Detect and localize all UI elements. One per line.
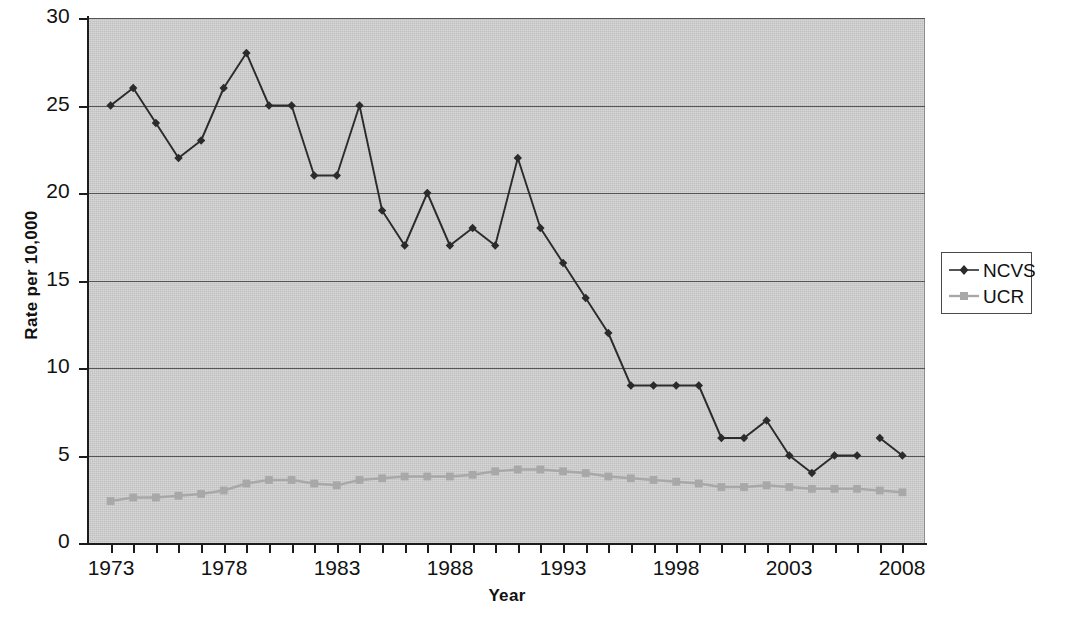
x-tick-label-2003: 2003 — [744, 556, 834, 580]
x-tick-1994 — [586, 545, 588, 553]
legend-label-ucr: UCR — [983, 286, 1024, 308]
datapoint-ucr-2006 — [853, 485, 861, 493]
x-tick-1997 — [654, 545, 656, 553]
datapoint-ncvs-1980 — [265, 101, 273, 109]
x-tick-1983 — [337, 545, 339, 553]
x-tick-1990 — [495, 545, 497, 553]
series-group — [88, 18, 925, 543]
x-tick-1993 — [563, 545, 565, 553]
datapoint-ucr-2005 — [831, 485, 839, 493]
legend-item-ncvs: NCVS — [947, 258, 1029, 282]
datapoint-ucr-1986 — [401, 473, 409, 481]
datapoint-ucr-1985 — [378, 474, 386, 482]
datapoint-ucr-1978 — [220, 487, 228, 495]
datapoint-ucr-1973 — [107, 497, 115, 505]
datapoint-ucr-1977 — [197, 490, 205, 498]
x-tick-1975 — [156, 545, 158, 553]
x-tick-1992 — [540, 545, 542, 553]
x-tick-1986 — [405, 545, 407, 553]
datapoint-ncvs-1998 — [672, 381, 680, 389]
x-tick-1985 — [382, 545, 384, 553]
x-tick-1998 — [676, 545, 678, 553]
datapoint-ncvs-2006 — [853, 451, 861, 459]
datapoint-ucr-2002 — [763, 481, 771, 489]
x-tick-2005 — [835, 545, 837, 553]
y-tick-20 — [79, 193, 88, 195]
y-tick-30 — [79, 18, 88, 20]
x-tick-label-1973: 1973 — [66, 556, 156, 580]
datapoint-ucr-1999 — [695, 480, 703, 488]
y-tick-10 — [79, 368, 88, 370]
datapoint-ucr-1988 — [446, 473, 454, 481]
x-tick-1995 — [608, 545, 610, 553]
x-tick-2000 — [721, 545, 723, 553]
datapoint-ncvs-1981 — [287, 101, 295, 109]
datapoint-ucr-1974 — [129, 494, 137, 502]
x-tick-label-1998: 1998 — [631, 556, 721, 580]
datapoint-ucr-1995 — [604, 473, 612, 481]
y-tick-15 — [79, 281, 88, 283]
x-tick-1996 — [631, 545, 633, 553]
datapoint-ucr-1975 — [152, 494, 160, 502]
datapoint-ucr-1994 — [582, 469, 590, 477]
x-tick-2004 — [812, 545, 814, 553]
series-ucr — [107, 466, 907, 505]
datapoint-ucr-1979 — [243, 480, 251, 488]
legend-label-ncvs: NCVS — [983, 260, 1036, 282]
datapoint-ucr-1990 — [491, 467, 499, 475]
x-tick-label-1978: 1978 — [179, 556, 269, 580]
x-tick-1979 — [246, 545, 248, 553]
datapoint-ncvs-1984 — [355, 101, 363, 109]
x-tick-1999 — [699, 545, 701, 553]
datapoint-ncvs-1983 — [333, 171, 341, 179]
x-tick-2003 — [789, 545, 791, 553]
x-tick-1974 — [133, 545, 135, 553]
chart-legend: NCVS UCR — [941, 252, 1032, 314]
x-tick-1982 — [314, 545, 316, 553]
y-tick-label-25: 25 — [10, 92, 70, 116]
datapoint-ucr-1991 — [514, 466, 522, 474]
datapoint-ucr-2004 — [808, 485, 816, 493]
datapoint-ucr-2007 — [876, 487, 884, 495]
x-tick-1987 — [427, 545, 429, 553]
x-tick-1989 — [473, 545, 475, 553]
datapoint-ncvs-1982 — [310, 171, 318, 179]
chart-figure: 051015202530 197319781983198819931998200… — [0, 0, 1066, 620]
datapoint-ucr-1987 — [423, 473, 431, 481]
datapoint-ucr-1993 — [559, 467, 567, 475]
datapoint-ucr-1997 — [650, 476, 658, 484]
y-tick-label-5: 5 — [10, 442, 70, 466]
x-tick-1977 — [201, 545, 203, 553]
datapoint-ucr-1992 — [537, 466, 545, 474]
x-tick-1988 — [450, 545, 452, 553]
datapoint-ucr-1976 — [175, 492, 183, 500]
y-tick-5 — [79, 456, 88, 458]
x-tick-label-1988: 1988 — [405, 556, 495, 580]
datapoint-ucr-1996 — [627, 474, 635, 482]
x-tick-1973 — [111, 545, 113, 553]
datapoint-ucr-1989 — [469, 471, 477, 479]
x-tick-2006 — [857, 545, 859, 553]
x-tick-1984 — [359, 545, 361, 553]
y-tick-label-30: 30 — [10, 4, 70, 28]
datapoint-ncvs-1987 — [423, 189, 431, 197]
datapoint-ucr-2000 — [718, 483, 726, 491]
legend-marker-ncvs — [947, 258, 981, 282]
x-tick-1978 — [224, 545, 226, 553]
y-tick-25 — [79, 106, 88, 108]
legend-item-ucr: UCR — [947, 284, 1029, 308]
datapoint-ncvs-1991 — [514, 154, 522, 162]
datapoint-ucr-1984 — [356, 476, 364, 484]
datapoint-ucr-1980 — [265, 476, 273, 484]
series-ncvs — [106, 49, 906, 477]
datapoint-ucr-1998 — [672, 478, 680, 486]
y-axis-title: Rate per 10,000 — [22, 125, 42, 425]
datapoint-ncvs-1999 — [695, 381, 703, 389]
datapoint-ncvs-1997 — [649, 381, 657, 389]
x-tick-label-1983: 1983 — [292, 556, 382, 580]
datapoint-ucr-2003 — [785, 483, 793, 491]
x-tick-1991 — [518, 545, 520, 553]
x-tick-label-2008: 2008 — [857, 556, 947, 580]
x-tick-2001 — [744, 545, 746, 553]
datapoint-ncvs-1996 — [627, 381, 635, 389]
